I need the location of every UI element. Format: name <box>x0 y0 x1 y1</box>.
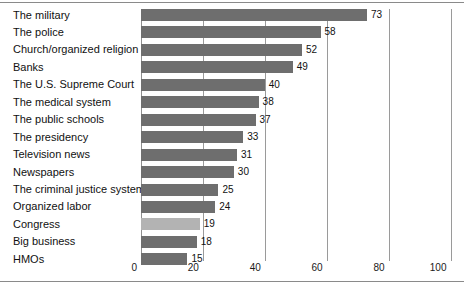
bar-value-label: 52 <box>306 44 317 56</box>
bar <box>141 149 237 161</box>
x-axis-tick-label: 40 <box>221 262 261 274</box>
bar <box>141 184 218 196</box>
bar-value-label: 31 <box>241 149 252 161</box>
gridline-100 <box>451 9 452 261</box>
bar-value-label: 18 <box>201 236 212 248</box>
bar <box>141 201 215 213</box>
bar-value-label: 33 <box>247 131 258 143</box>
bar <box>141 9 367 21</box>
bar <box>141 96 259 108</box>
bar-value-label: 25 <box>222 184 233 196</box>
x-axis-tick-label: 60 <box>283 262 323 274</box>
category-label: Congress <box>13 218 60 231</box>
category-label: Church/organized religion <box>13 43 138 56</box>
category-label: The medical system <box>13 96 111 109</box>
x-axis-tick-label: 0 <box>97 262 137 274</box>
x-axis-tick-label: 100 <box>407 262 447 274</box>
bar-value-label: 49 <box>297 61 308 73</box>
category-label: The police <box>13 26 64 39</box>
bar-value-label: 37 <box>260 114 271 126</box>
bar <box>141 114 256 126</box>
category-label: HMOs <box>13 253 44 266</box>
bar <box>141 61 293 73</box>
category-label: The presidency <box>13 131 88 144</box>
bar-value-label: 58 <box>325 26 336 38</box>
category-label: The military <box>13 9 70 22</box>
bar-value-label: 73 <box>371 9 382 21</box>
plot-area: 020406080100The military73The police58Ch… <box>0 0 464 285</box>
bar-value-label: 30 <box>238 166 249 178</box>
bar <box>141 79 265 91</box>
category-label: The criminal justice system <box>13 183 145 196</box>
bar <box>141 44 302 56</box>
bar <box>141 166 234 178</box>
bar-value-label: 24 <box>219 201 230 213</box>
bar <box>141 131 243 143</box>
bar-value-label: 19 <box>204 218 215 230</box>
bar-value-label: 15 <box>191 253 202 265</box>
category-label: Newspapers <box>13 166 74 179</box>
gridline-80 <box>389 9 390 261</box>
category-label: Television news <box>13 148 90 161</box>
bar-value-label: 38 <box>263 96 274 108</box>
bar <box>141 253 187 265</box>
category-label: The U.S. Supreme Court <box>13 78 134 91</box>
gridline-60 <box>327 9 328 261</box>
category-label: Big business <box>13 235 75 248</box>
category-label: The public schools <box>13 113 104 126</box>
bar <box>141 26 321 38</box>
category-label: Organized labor <box>13 200 91 213</box>
category-label: Banks <box>13 61 44 74</box>
bar-chart: 020406080100The military73The police58Ch… <box>0 0 464 285</box>
bar <box>141 236 197 248</box>
bar <box>141 218 200 230</box>
x-axis-tick-label: 80 <box>345 262 385 274</box>
bar-value-label: 40 <box>269 79 280 91</box>
